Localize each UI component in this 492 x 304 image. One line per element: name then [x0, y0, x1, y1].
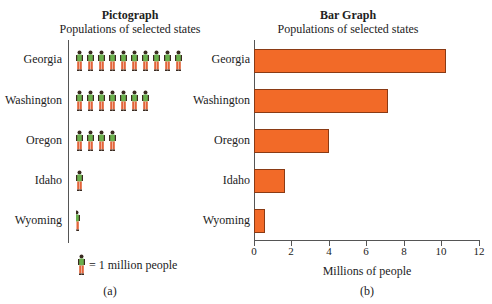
- bar-x-ticks: 0 2 4 6 8 10 12: [254, 241, 484, 261]
- person-icon: [76, 130, 122, 152]
- bar-oregon: [254, 129, 329, 153]
- pictograph-label-georgia: Georgia: [0, 52, 62, 67]
- bar-georgia: [254, 49, 446, 73]
- bar-label-oregon: Oregon: [188, 133, 250, 148]
- bar-label-wyoming: Wyoming: [188, 213, 250, 228]
- legend-text: = 1 million people: [89, 258, 177, 273]
- pictograph-title: Pictograph: [40, 8, 220, 23]
- bar-label-georgia: Georgia: [188, 52, 250, 67]
- pictograph-label-idaho: Idaho: [0, 173, 62, 188]
- bar-title: Bar Graph: [258, 8, 438, 23]
- x-tick-label: 0: [244, 245, 264, 257]
- bar-subtitle: Populations of selected states: [258, 22, 438, 37]
- pictograph-row-georgia: [76, 50, 186, 76]
- pictograph-row-oregon: [76, 130, 122, 156]
- pictograph-row-wyoming: [73, 210, 83, 236]
- x-tick-label: 2: [281, 245, 301, 257]
- person-icon: [78, 254, 86, 276]
- pictograph-row-idaho: [76, 170, 96, 196]
- bar-x-axis-label: Millions of people: [297, 264, 437, 279]
- person-icon: [76, 50, 186, 72]
- bar-washington: [254, 89, 388, 113]
- bar-idaho: [254, 169, 285, 193]
- person-icon: [76, 170, 96, 192]
- pictograph-legend: = 1 million people: [78, 254, 177, 276]
- x-tick-label: 10: [431, 245, 451, 257]
- x-tick-label: 12: [469, 245, 489, 257]
- person-icon: [73, 210, 83, 232]
- pictograph-subtitle: Populations of selected states: [40, 22, 220, 37]
- pictograph-row-washington: [76, 90, 156, 116]
- bar-wyoming: [254, 209, 265, 233]
- pictograph-label-wyoming: Wyoming: [0, 213, 62, 228]
- x-tick-label: 8: [394, 245, 414, 257]
- person-icon: [76, 90, 156, 112]
- pictograph-axis: [68, 40, 69, 243]
- bar-caption: (b): [347, 284, 387, 299]
- pictograph-label-oregon: Oregon: [0, 133, 62, 148]
- x-tick-label: 4: [319, 245, 339, 257]
- x-tick-label: 6: [356, 245, 376, 257]
- bar-label-washington: Washington: [188, 93, 250, 108]
- pictograph-caption: (a): [90, 284, 130, 299]
- pictograph-label-washington: Washington: [0, 93, 62, 108]
- bar-label-idaho: Idaho: [188, 173, 250, 188]
